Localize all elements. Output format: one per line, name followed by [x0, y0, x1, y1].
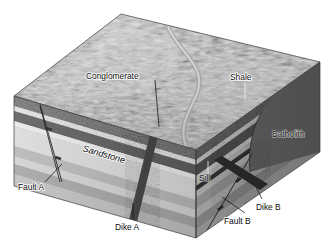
- geologic-block-diagram-figure: Conglomerate Shale Sandstone Batholith S…: [0, 0, 333, 249]
- label-dike-b: Dike B: [256, 202, 281, 212]
- label-conglomerate: Conglomerate: [86, 71, 139, 81]
- label-dike-a: Dike A: [115, 222, 140, 232]
- label-shale: Shale: [230, 72, 252, 82]
- block-diagram-canvas: Conglomerate Shale Sandstone Batholith S…: [0, 0, 333, 249]
- label-batholith: Batholith: [272, 129, 305, 139]
- label-fault-a: Fault A: [18, 182, 44, 192]
- label-sill: Sill: [199, 173, 210, 183]
- label-fault-b: Fault B: [224, 216, 251, 226]
